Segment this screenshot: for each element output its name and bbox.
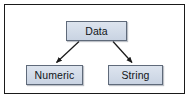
- node-numeric[interactable]: Numeric: [26, 65, 83, 85]
- node-string[interactable]: String: [108, 65, 163, 85]
- node-data-label: Data: [85, 26, 108, 37]
- node-numeric-label: Numeric: [35, 70, 75, 81]
- node-data[interactable]: Data: [66, 21, 127, 41]
- node-string-label: String: [121, 70, 149, 81]
- diagram-canvas: Data Numeric String: [0, 0, 191, 102]
